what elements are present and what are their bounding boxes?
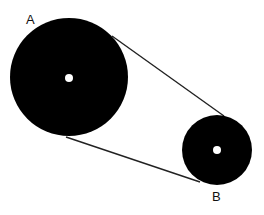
pulley-diagram — [0, 0, 264, 215]
belt-bottom — [66, 137, 200, 182]
belt-top — [112, 36, 224, 116]
pulley-b-hub — [213, 146, 221, 154]
pulley-a-hub — [65, 74, 73, 82]
label-a: A — [26, 12, 35, 27]
label-b: B — [212, 189, 221, 204]
